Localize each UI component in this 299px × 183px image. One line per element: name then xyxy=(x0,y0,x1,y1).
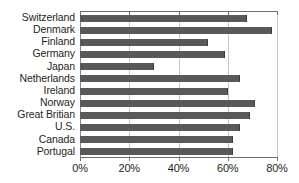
x-tick-label: 0% xyxy=(72,163,88,174)
bar xyxy=(80,88,228,95)
category-label: Germany xyxy=(0,48,78,60)
bar-row xyxy=(80,12,277,24)
top-tick-mark xyxy=(277,11,278,15)
bar xyxy=(80,148,233,155)
x-tick-mark xyxy=(80,157,81,161)
category-label: Canada xyxy=(0,133,78,145)
x-tick-label: 40% xyxy=(168,163,189,174)
bar-row xyxy=(80,49,277,61)
bar xyxy=(80,39,208,46)
category-label: Norway xyxy=(0,96,78,108)
gridline xyxy=(277,12,278,158)
x-tick-mark xyxy=(129,157,130,161)
x-tick-label: 60% xyxy=(217,163,238,174)
bar-row xyxy=(80,24,277,36)
bar xyxy=(80,136,233,143)
bar xyxy=(80,75,240,82)
plot-area xyxy=(80,11,277,158)
bar-row xyxy=(80,61,277,73)
category-label: Ireland xyxy=(0,84,78,96)
bar xyxy=(80,63,154,70)
category-label: Denmark xyxy=(0,23,78,35)
x-tick-label: 80% xyxy=(266,163,287,174)
category-label: Finland xyxy=(0,35,78,47)
x-axis-tick-labels: 0%20%40%60%80% xyxy=(80,163,277,179)
bar-row xyxy=(80,134,277,146)
category-label: Netherlands xyxy=(0,72,78,84)
bar xyxy=(80,27,272,34)
x-tick-label: 20% xyxy=(119,163,140,174)
bar-chart: SwitzerlandDenmarkFinlandGermanyJapanNet… xyxy=(0,0,299,183)
bar-row xyxy=(80,73,277,85)
bar xyxy=(80,112,250,119)
bar-row xyxy=(80,36,277,48)
bar xyxy=(80,51,225,58)
bar-row xyxy=(80,109,277,121)
category-label: Switzerland xyxy=(0,11,78,23)
category-axis-labels: SwitzerlandDenmarkFinlandGermanyJapanNet… xyxy=(0,11,78,157)
x-tick-mark xyxy=(228,157,229,161)
category-label: Japan xyxy=(0,60,78,72)
x-tick-mark xyxy=(277,157,278,161)
bar xyxy=(80,124,240,131)
x-tick-mark xyxy=(179,157,180,161)
category-label: Great Britian xyxy=(0,108,78,120)
category-label: U.S. xyxy=(0,121,78,133)
bar-row xyxy=(80,85,277,97)
bar-row xyxy=(80,122,277,134)
bar-series xyxy=(80,12,277,158)
bar xyxy=(80,15,247,22)
category-label: Portugal xyxy=(0,145,78,157)
bar xyxy=(80,100,255,107)
bar-row xyxy=(80,97,277,109)
